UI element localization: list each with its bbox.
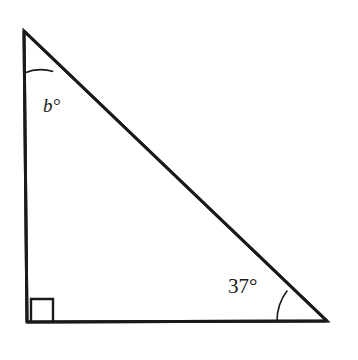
triangle-diagram: b° 37° <box>0 0 358 360</box>
bottom-leg <box>27 321 327 322</box>
figure-canvas: b° 37° <box>0 0 358 360</box>
angle-label-b: b° <box>43 95 61 116</box>
angle-label-37: 37° <box>228 274 257 298</box>
